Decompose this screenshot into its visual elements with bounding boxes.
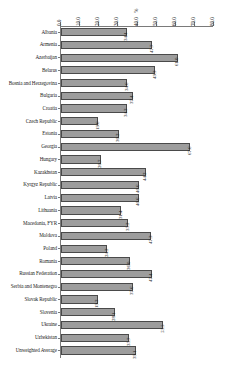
bar [61,143,190,151]
bar [61,168,146,176]
bar [61,245,107,253]
bar-value-label: 47.3 [148,236,153,244]
category-label: Estonia [2,130,57,136]
category-label: Belarus [2,67,57,73]
bar [61,321,163,329]
bar [61,270,152,278]
bar-value-label: 31.4 [118,210,123,218]
bar-value-label: 40.6 [135,198,140,206]
bar [61,104,127,112]
horizontal-bar-chart: 0.010.020.030.040.050.060.070.080.0% Alb… [0,0,226,365]
bar [61,346,136,354]
bar [61,295,98,303]
bar-value-label: 37.6 [129,287,134,295]
bar [61,92,133,100]
axis-tick-label: 20.0 [94,17,100,26]
bar [61,54,178,62]
bar [61,334,129,342]
axis-tick-label: 10.0 [75,17,81,26]
bar-value-label: 67.6 [187,147,192,155]
category-label: Kazakhstan [2,169,57,175]
category-label: Uzbekistan [2,334,57,340]
category-label: Slovenia [2,309,57,315]
axis-tick-label: 60.0 [171,17,177,26]
category-label: Latvia [2,194,57,200]
bar [61,117,98,125]
bar-value-label: 24.2 [104,249,109,257]
category-label: Bulgaria [2,92,57,98]
axis-tick-label: 50.0 [152,17,158,26]
bar-value-label: 35.7 [126,338,131,346]
bar-value-label: 47.7 [149,45,154,53]
bar [61,232,151,240]
bar [61,308,115,316]
axis-tick-label: 40.0 [133,17,139,26]
bar [61,41,152,49]
bar [61,28,127,36]
bar-value-label: 37.4 [129,96,134,104]
bar [61,79,127,87]
category-label: Hungary [2,156,57,162]
bar [61,283,133,291]
category-label: Ukraine [2,321,57,327]
category-label: Georgia [2,143,57,149]
category-label: Armenia [2,41,57,47]
category-label: Croatia [2,105,57,111]
axis-tick-label: 70.0 [190,17,196,26]
category-label: Azerbaijan [2,54,57,60]
bar-value-label: 30.2 [115,134,120,142]
category-label: Serbia and Montenegro [2,283,57,289]
category-label: Kyrgyz Republic [2,181,57,187]
bar-value-label: 36.0 [126,261,131,269]
category-label: Poland [2,245,57,251]
bar-value-label: 34.6 [124,83,129,91]
bar-value-label: 28.1 [111,312,116,320]
bar-value-label: 40.6 [135,185,140,193]
category-label: Slovak Republic [2,296,57,302]
bar [61,181,139,189]
bar-value-label: 44.2 [142,172,147,180]
bar-value-label: 19.6 [95,121,100,129]
category-label: Lithuania [2,207,57,213]
bar-value-label: 35.2 [125,223,130,231]
bar [61,257,130,265]
category-label: Bosnia and Herzegovina [2,80,57,86]
bar-value-label: 53.5 [160,325,165,333]
category-label: Albania [2,29,57,35]
category-label: Moldova [2,232,57,238]
axis-unit-label: % [133,9,139,13]
category-label: Macedonia, FYR [2,220,57,226]
bar-value-label: 47.4 [148,274,153,282]
bar [61,194,139,202]
bar [61,155,101,163]
bar [61,66,155,74]
bar-value-label: 34.4 [123,32,128,40]
category-label: Russian Federation [2,270,57,276]
bar-value-label: 49.3 [152,70,157,78]
category-label: Czech Republic [2,118,57,124]
axis-tick-label: 30.0 [113,17,119,26]
category-label: Unweighted Average [2,347,57,353]
bar [61,130,119,138]
bar-value-label: 61.0 [174,58,179,66]
bar-value-label: 34.3 [123,109,128,117]
axis-tick-label: 0.0 [56,20,62,26]
axis-tick-label: 80.0 [209,17,215,26]
bar-value-label: 20.7 [97,159,102,167]
bar-value-label: 19.3 [94,299,99,307]
category-label: Romania [2,258,57,264]
bar [61,206,121,214]
bar-value-label: 39.1 [132,350,137,358]
bar [61,219,128,227]
